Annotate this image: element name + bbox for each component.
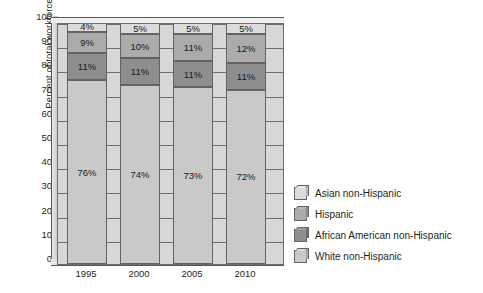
bar-segment-side-face (159, 58, 160, 80)
bar-segment-label: 9% (80, 37, 94, 48)
bar-segment-label: 5% (186, 23, 200, 34)
bar-segment[interactable]: 11% (173, 61, 213, 88)
legend-item-label: African American non-Hispanic (315, 230, 452, 241)
x-axis: 1995200020052010 (57, 268, 291, 286)
bar-segment-side-face (106, 32, 107, 49)
x-axis-tick-2010: 2010 (218, 268, 272, 279)
bar-segment-side-face (212, 61, 213, 83)
bar-segment-label: 73% (183, 170, 202, 181)
bar-group-2000[interactable]: 74%11%10%5% (120, 23, 164, 264)
bar-segment-side-face (212, 87, 213, 259)
legend-item-label: Hispanic (315, 209, 353, 220)
legend-swatch-icon (294, 229, 307, 242)
bar-segment-label: 11% (78, 61, 96, 72)
bar-segment[interactable]: 11% (226, 63, 266, 90)
legend-item[interactable]: Asian non-Hispanic (294, 183, 480, 204)
legend-item[interactable]: African American non-Hispanic (294, 225, 480, 246)
bar-segment[interactable]: 10% (120, 34, 160, 58)
bar-segment-label: 11% (237, 71, 255, 82)
bar-group-1995[interactable]: 76%11%9%4% (67, 23, 111, 264)
bar-segment[interactable]: 4% (67, 23, 107, 32)
legend-swatch-icon (294, 250, 307, 263)
bar-segment-side-face (265, 90, 266, 259)
legend-item[interactable]: Hispanic (294, 204, 480, 225)
bar-segment-label: 5% (133, 23, 147, 34)
bar-segment-side-face (159, 34, 160, 53)
bar-series-container: 76%11%9%4%74%11%10%5%73%11%11%5%72%11%12… (58, 24, 283, 264)
bar-segment[interactable]: 12% (226, 34, 266, 63)
bar-segment[interactable]: 74% (120, 85, 160, 264)
bar-segment[interactable]: 73% (173, 87, 213, 264)
bar-segment-label: 74% (130, 169, 149, 180)
bar-segment-label: 76% (77, 167, 96, 178)
bar-segment[interactable]: 9% (67, 32, 107, 54)
bar-segment-side-face (265, 23, 266, 29)
bar-segment[interactable]: 5% (173, 23, 213, 34)
bar-segment-side-face (106, 23, 107, 27)
bar-segment-side-face (265, 63, 266, 85)
legend-swatch-icon (294, 208, 307, 221)
bar-segment-label: 11% (184, 42, 202, 53)
legend: Asian non-HispanicHispanicAfrican Americ… (294, 183, 480, 267)
bar-segment-label: 10% (130, 41, 149, 52)
plot-area: 76%11%9%4%74%11%10%5%73%11%11%5%72%11%12… (57, 17, 284, 265)
bar-segment-label: 5% (239, 23, 253, 34)
bar-segment-label: 72% (236, 171, 255, 182)
bar-group-2005[interactable]: 73%11%11%5% (173, 23, 217, 264)
bar-segment-label: 11% (131, 66, 149, 77)
bar-segment[interactable]: 11% (173, 34, 213, 61)
bar-segment[interactable]: 72% (226, 90, 266, 264)
legend-item[interactable]: White non-Hispanic (294, 246, 480, 267)
x-axis-tick-2005: 2005 (165, 268, 219, 279)
bar-segment-label: 12% (236, 43, 255, 54)
legend-item-label: White non-Hispanic (315, 251, 402, 262)
bar-segment-side-face (159, 23, 160, 29)
bar-segment-side-face (265, 34, 266, 58)
bar-segment[interactable]: 5% (226, 23, 266, 34)
bar-segment-side-face (159, 85, 160, 259)
bar-segment-label: 4% (80, 23, 94, 32)
x-axis-tick-1995: 1995 (59, 268, 113, 279)
plot-panel: 76%11%9%4%74%11%10%5%73%11%11%5%72%11%12… (57, 23, 284, 265)
legend-item-label: Asian non-Hispanic (315, 188, 401, 199)
bar-segment-side-face (106, 53, 107, 75)
bar-segment[interactable]: 5% (120, 23, 160, 34)
stacked-bar-chart: Percent of total workforce 1009080706050… (0, 0, 483, 293)
bar-segment-side-face (212, 34, 213, 56)
bar-segment[interactable]: 76% (67, 80, 107, 264)
bar-segment-side-face (212, 23, 213, 29)
bar-segment[interactable]: 11% (120, 58, 160, 85)
bar-segment-side-face (106, 80, 107, 259)
legend-swatch-icon (294, 187, 307, 200)
bar-segment[interactable]: 11% (67, 53, 107, 80)
bar-group-2010[interactable]: 72%11%12%5% (226, 23, 270, 264)
x-axis-tick-2000: 2000 (112, 268, 166, 279)
bar-segment-label: 11% (184, 69, 202, 80)
